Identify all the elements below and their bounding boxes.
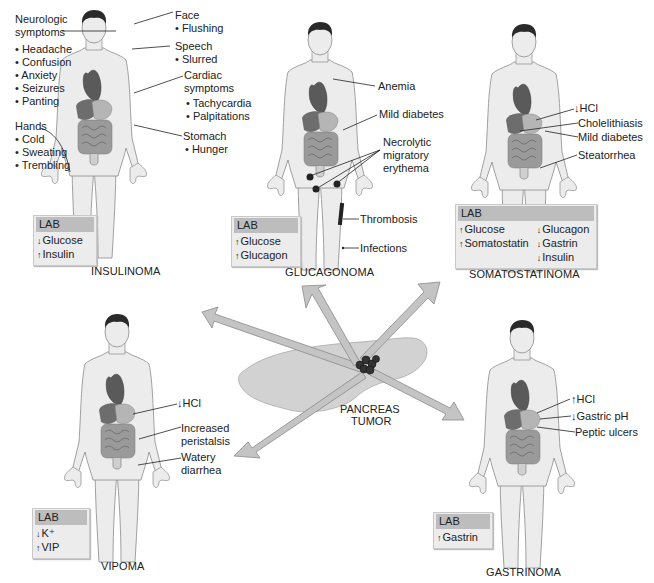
glucagonoma-infections-label: Infections — [360, 242, 407, 255]
insulinoma-lab-box: LAB ↓Glucose ↑Insulin — [33, 215, 97, 266]
glucagonoma-diabetes-label: Mild diabetes — [379, 108, 444, 121]
vipoma-diarrhea-label: Watery diarrhea — [181, 451, 221, 477]
lab-row: ↓K⁺ — [36, 527, 86, 541]
lab-row: ↑Insulin — [37, 248, 93, 262]
lab-row: ↓Insulin — [537, 251, 590, 265]
somatostatinoma-cholelithiasis-label: Cholelithiasis — [578, 117, 643, 130]
insulinoma-neuro-label: Neurologic symptoms — [15, 13, 68, 39]
gastrinoma-title: GASTRINOMA — [486, 566, 561, 578]
arrow-down-icon: ↓ — [537, 239, 542, 249]
insulinoma-title: INSULINOMA — [91, 265, 160, 277]
insulinoma-face-label: Face • Flushing — [175, 9, 224, 35]
arrow-down-icon: ↓ — [537, 225, 542, 235]
insulinoma-hands-label: Hands • Cold • Sweating • Trembling — [15, 120, 70, 172]
vipoma-title: VIPOMA — [101, 560, 144, 572]
arrow-up-icon: ↑ — [437, 533, 442, 543]
glucagonoma-anemia-label: Anemia — [378, 80, 415, 93]
gastrinoma-hcl-label: ↑HCl — [571, 393, 595, 406]
lab-row: ↓Gastrin — [537, 237, 590, 251]
arrow-up-icon: ↑ — [459, 239, 464, 249]
vipoma-peristalsis-label: Increased peristalsis — [181, 422, 230, 448]
insulinoma-speech-label: Speech • Slurred — [175, 40, 217, 66]
lab-row: ↑Somatostatin — [459, 237, 529, 251]
lab-row: ↓Glucagon — [537, 223, 590, 237]
gastrinoma-lab-box: LAB ↑Gastrin — [433, 512, 493, 549]
lab-row: ↑Glucagon — [235, 249, 297, 263]
gastrinoma-ph-label: ↓Gastric pH — [571, 410, 628, 423]
somatostatinoma-hcl-label: ↓HCl — [574, 102, 598, 115]
lab-row: ↑VIP — [36, 541, 86, 555]
arrow-down-icon: ↓ — [537, 253, 542, 263]
arrow-up-icon: ↑ — [36, 543, 41, 553]
somatostatinoma-lab-box: LAB ↑Glucose ↑Somatostatin ↓Glucagon ↓Ga… — [455, 204, 597, 269]
somatostatinoma-steatorrhea-label: Steatorrhea — [578, 149, 635, 162]
lab-row: ↓Glucose — [37, 234, 93, 248]
glucagonoma-lab-box: LAB ↑Glucose ↑Glucagon — [231, 216, 301, 267]
vipoma-hcl-label: ↓HCl — [177, 397, 201, 410]
somatostatinoma-diabetes-label: Mild diabetes — [578, 131, 643, 144]
arrow-down-icon: ↓ — [37, 236, 42, 246]
glucagonoma-title: GLUCAGONOMA — [285, 266, 374, 278]
glucagonoma-thrombosis-label: Thrombosis — [360, 213, 417, 226]
arrow-up-icon: ↑ — [235, 237, 240, 247]
lab-row: ↑Glucose — [459, 223, 529, 237]
center-label-tumor: TUMOR — [351, 415, 391, 428]
glucagonoma-nme-label: Necrolytic migratory erythema — [383, 136, 431, 175]
arrow-down-icon: ↓ — [36, 529, 41, 539]
insulinoma-stomach-label: Stomach • Hunger — [183, 130, 228, 156]
arrow-up-icon: ↑ — [235, 251, 240, 261]
somatostatinoma-title: SOMATOSTATINOMA — [469, 268, 580, 280]
arrow-up-icon: ↑ — [37, 250, 42, 260]
arrow-up-icon: ↑ — [459, 225, 464, 235]
lab-row: ↑Gastrin — [437, 531, 489, 545]
lab-row: ↑Glucose — [235, 235, 297, 249]
insulinoma-neuro-list: • Headache • Confusion • Anxiety • Seizu… — [15, 43, 72, 108]
vipoma-lab-box: LAB ↓K⁺ ↑VIP — [32, 508, 90, 559]
insulinoma-cardiac-label: Cardiac symptoms • Tachycardia • Palpita… — [184, 69, 251, 123]
gastrinoma-ulcers-label: Peptic ulcers — [575, 426, 638, 439]
